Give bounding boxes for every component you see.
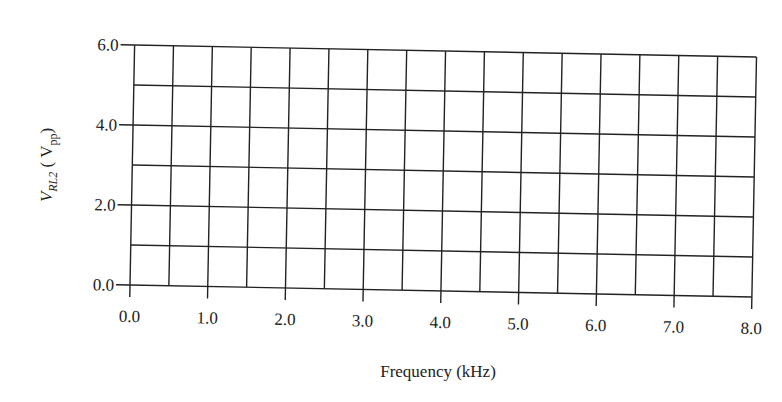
- plot-area: 0.01.02.03.04.05.06.07.08.0 0.02.04.06.0: [92, 35, 767, 338]
- grid: [130, 45, 756, 297]
- x-tick-label: 3.0: [352, 311, 374, 330]
- y-tick-label: 0.0: [93, 275, 115, 294]
- y-tick-label: 2.0: [94, 195, 116, 214]
- y-tick-label: 6.0: [97, 35, 119, 54]
- chart-svg: 0.01.02.03.04.05.06.07.08.0 0.02.04.06.0…: [0, 0, 782, 402]
- chart: 0.01.02.03.04.05.06.07.08.0 0.02.04.06.0…: [0, 0, 782, 402]
- x-axis: 0.01.02.03.04.05.06.07.08.0: [119, 285, 763, 338]
- x-tick-label: 4.0: [430, 313, 452, 332]
- x-tick-label: 7.0: [663, 317, 685, 336]
- svg-text:VRL2 ( Vpp): VRL2 ( Vpp): [37, 128, 60, 202]
- x-tick-label: 1.0: [196, 308, 218, 327]
- x-axis-label: Frequency (kHz): [380, 362, 496, 381]
- y-tick-label: 4.0: [96, 115, 118, 134]
- x-tick-label: 5.0: [507, 314, 529, 333]
- x-tick-label: 6.0: [585, 316, 607, 335]
- x-tick-label: 2.0: [274, 310, 296, 329]
- x-tick-label: 0.0: [119, 307, 141, 326]
- x-tick-label: 8.0: [740, 319, 762, 338]
- y-axis: 0.02.04.06.0: [93, 35, 135, 295]
- y-axis-label: VRL2 ( Vpp): [37, 128, 60, 202]
